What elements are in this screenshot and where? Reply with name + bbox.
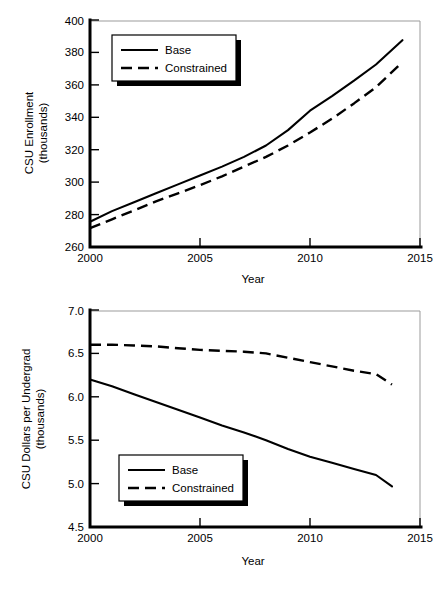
x-axis-title: Year: [241, 555, 264, 567]
x-axis-ticks-top: [90, 238, 420, 246]
chart-csu-enrollment: 260 280 300 320 340 360 380 400 2000 200…: [0, 0, 437, 297]
x-tick-label: 2005: [187, 252, 213, 264]
y-axis-title-line1: CSU Dollars per Undergrad: [20, 349, 32, 490]
x-tick-label: 2000: [77, 532, 103, 544]
y-tick-label: 300: [65, 176, 84, 188]
y-tick-label: 5.0: [68, 478, 84, 490]
legend-label-constrained: Constrained: [165, 62, 227, 74]
y-tick-label: 360: [65, 79, 84, 91]
x-tick-label: 2010: [297, 252, 323, 264]
series-line-constrained: [90, 62, 402, 228]
x-axis-title: Year: [241, 273, 264, 285]
legend-label-base: Base: [165, 44, 191, 56]
y-tick-label: 7.0: [68, 305, 84, 317]
x-tick-label: 2015: [407, 252, 433, 264]
y-tick-label: 340: [65, 111, 84, 123]
legend-top: Base Constrained: [112, 35, 241, 86]
series-line-constrained: [90, 345, 392, 385]
y-tick-label: 400: [65, 15, 84, 27]
y-tick-label: 380: [65, 46, 84, 58]
y-tick-label: 280: [65, 209, 84, 221]
x-tick-label: 2005: [187, 532, 213, 544]
y-axis-title-line2: (thousands): [37, 102, 49, 163]
y-axis-ticks-bottom: [91, 310, 99, 527]
chart-csu-dollars-svg: 4.5 5.0 5.5 6.0 6.5 7.0 2000 2005 2010 2…: [0, 297, 437, 594]
y-axis-title-line1: CSU Enrollment: [23, 91, 35, 174]
legend-bottom: Base Constrained: [119, 455, 248, 506]
legend-box: [119, 455, 243, 501]
legend-box: [112, 35, 236, 81]
y-axis-ticks-top: [91, 20, 99, 247]
y-tick-label: 6.0: [68, 391, 84, 403]
y-tick-label: 320: [65, 144, 84, 156]
y-tick-label: 5.5: [68, 434, 84, 446]
legend-label-constrained: Constrained: [172, 482, 234, 494]
x-tick-label: 2010: [297, 532, 323, 544]
x-axis-ticks-bottom: [90, 518, 420, 526]
chart-csu-enrollment-svg: 260 280 300 320 340 360 380 400 2000 200…: [0, 0, 437, 297]
chart-csu-dollars-per-undergrad: 4.5 5.0 5.5 6.0 6.5 7.0 2000 2005 2010 2…: [0, 297, 437, 594]
x-tick-label: 2000: [77, 252, 103, 264]
y-axis-title-line2: (thousands): [34, 388, 46, 449]
y-tick-label: 6.5: [68, 347, 84, 359]
x-tick-label: 2015: [407, 532, 433, 544]
legend-label-base: Base: [172, 464, 198, 476]
